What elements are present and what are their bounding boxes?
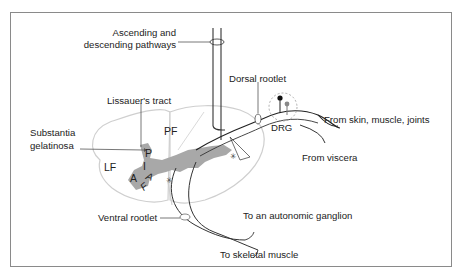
label-lf: LF [104, 162, 116, 173]
label-to-autonomic-ganglion: To an autonomic ganglion [243, 211, 352, 221]
label-a: A [130, 173, 137, 184]
label-to-skeletal-muscle: To skeletal muscle [220, 250, 298, 260]
label-ventral-rootlet: Ventral rootlet [98, 213, 157, 223]
label-substantia: Substantia [30, 128, 75, 138]
cord-left-half [93, 110, 170, 202]
label-descending-pathways: descending pathways [68, 40, 176, 50]
svg-text:✳: ✳ [230, 152, 237, 161]
label-from-viscera: From viscera [302, 153, 357, 163]
label-gelatinosa: gelatinosa [30, 141, 74, 151]
label-i: I [143, 161, 146, 172]
label-dorsal-rootlet: Dorsal rootlet [229, 74, 286, 84]
label-p: P [145, 148, 152, 159]
label-from-skin: From skin, muscle, joints [324, 115, 430, 125]
label-pf: PF [164, 126, 177, 137]
svg-text:✳: ✳ [166, 176, 173, 185]
label-ascending: Ascending and [78, 28, 176, 38]
label-lissauers-tract: Lissauer's tract [107, 96, 171, 106]
label-drg: DRG [271, 123, 292, 133]
